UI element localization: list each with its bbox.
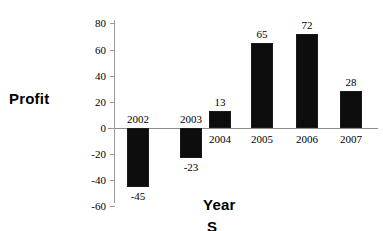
bar [251, 43, 273, 128]
bar [296, 34, 318, 128]
y-axis-line [114, 20, 115, 203]
bar-value-label: -23 [170, 162, 212, 173]
y-axis-tick-label-text: -60 [78, 201, 106, 212]
x-axis-category-label: 2003 [170, 114, 212, 125]
x-axis-category-label: 2004 [199, 134, 241, 145]
y-axis-tick [110, 180, 115, 181]
y-axis-tick [110, 206, 115, 207]
y-axis-tick-label: 80 [78, 18, 106, 29]
x-axis-category-label: 2007 [330, 134, 372, 145]
plot-area: 806040200-20-40-60 -45-2313657228 200220… [0, 0, 383, 231]
bar-value-label: 28 [330, 77, 372, 88]
y-axis-tick-label-text: 20 [78, 97, 106, 108]
y-axis-tick-label-text: 80 [78, 18, 106, 29]
y-axis-tick [110, 23, 115, 24]
y-axis-tick [110, 50, 115, 51]
x-axis-title: Year [203, 196, 236, 213]
bar [209, 111, 231, 128]
y-axis-tick [110, 76, 115, 77]
bar-value-label: 65 [241, 29, 283, 40]
y-axis-tick-label-text: 0 [78, 123, 106, 134]
y-axis-tick-label: -60 [78, 201, 106, 212]
y-axis-tick-label-text: 40 [78, 71, 106, 82]
y-axis-tick-label: 40 [78, 71, 106, 82]
y-axis-tick-label-text: -40 [78, 175, 106, 186]
y-axis-tick [110, 102, 115, 103]
x-axis-category-label: 2006 [286, 134, 328, 145]
bar-value-label: 13 [199, 97, 241, 108]
bar-value-label: -45 [117, 191, 159, 202]
y-axis-tick-label: -20 [78, 149, 106, 160]
x-axis-category-label: 2005 [241, 134, 283, 145]
bar-value-label: 72 [286, 20, 328, 31]
bar-chart: 806040200-20-40-60 -45-2313657228 200220… [0, 0, 383, 231]
y-axis-tick-label: 20 [78, 97, 106, 108]
y-axis-tick-label: 0 [78, 123, 106, 134]
y-axis-tick-label: 60 [78, 45, 106, 56]
x-axis-title-clipped-fragment: S [207, 222, 219, 231]
y-axis-tick [110, 154, 115, 155]
y-axis-tick-label-text: -20 [78, 149, 106, 160]
bar [340, 91, 362, 128]
y-axis-tick-label-text: 60 [78, 45, 106, 56]
y-axis-tick [110, 128, 115, 129]
y-axis-tick-label: -40 [78, 175, 106, 186]
x-axis-category-label: 2002 [117, 114, 159, 125]
y-axis-title: Profit [9, 90, 49, 107]
bar [127, 128, 149, 187]
